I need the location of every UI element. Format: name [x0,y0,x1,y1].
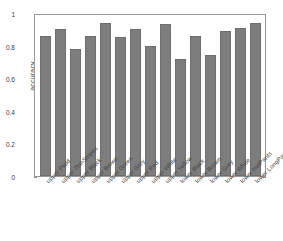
bar [220,31,231,176]
bar [235,28,246,176]
bar [100,23,111,176]
bar [130,29,141,176]
bar [145,46,156,176]
y-tick-label: 1 [0,11,15,18]
bar [55,29,66,176]
bar [250,23,261,176]
y-tick-label: 0.4 [0,108,15,115]
bar [70,49,81,176]
bar [40,36,51,176]
bar [160,24,171,176]
y-tick-label: 0.8 [0,43,15,50]
bar [190,36,201,176]
bar-series [35,15,265,176]
y-tick-mark-right [263,177,266,178]
bar [205,55,216,176]
y-tick-label: 0.2 [0,141,15,148]
bar-chart-figure: accuracy 00.20.40.60.81 upper Plaidupper… [0,0,283,241]
y-tick-mark [34,177,37,178]
y-tick-label: 0 [0,174,15,181]
bar [85,36,96,176]
y-tick-label: 0.6 [0,76,15,83]
bar [175,59,186,176]
bar [115,37,126,176]
plot-area [34,14,266,177]
